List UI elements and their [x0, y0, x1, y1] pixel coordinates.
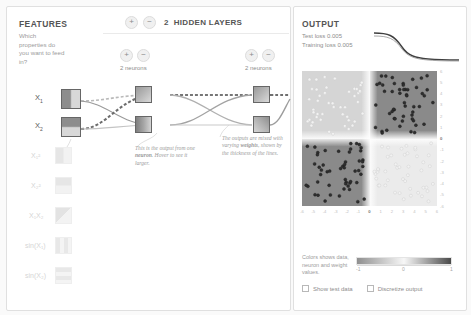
- annotation-neuron-bold: neuron: [135, 152, 152, 158]
- data-point: [425, 186, 428, 189]
- add-neuron-layer-1-button[interactable]: +: [120, 49, 133, 62]
- y-tick-neg1: -1: [440, 147, 448, 152]
- data-point: [402, 115, 405, 118]
- data-point: [343, 163, 346, 166]
- show-test-data-box[interactable]: [302, 285, 309, 292]
- y-tick-6: 6: [440, 69, 448, 74]
- data-point: [355, 88, 358, 91]
- annotation-neuron: This is the output from one neuron. Hove…: [135, 145, 197, 167]
- data-point: [360, 81, 363, 84]
- hidden-node-l2-n2[interactable]: [253, 116, 270, 133]
- layer-2-control: + − 2 neurons: [245, 49, 275, 71]
- x-tick-neg2: -2: [343, 209, 351, 214]
- data-point: [374, 126, 377, 129]
- data-point: [406, 152, 409, 155]
- feature-label-x1x2: X₁X₂: [29, 212, 43, 219]
- data-point: [323, 91, 326, 94]
- data-point: [414, 124, 417, 127]
- data-point: [343, 187, 346, 190]
- feature-swatch-x1-squared[interactable]: [55, 147, 72, 164]
- data-point: [401, 120, 404, 123]
- legend-tick-mid: 0: [402, 266, 405, 272]
- data-point: [414, 146, 417, 149]
- hidden-node-l1-n2[interactable]: [135, 116, 152, 133]
- y-tick-5: 5: [440, 80, 448, 85]
- y-tick-neg2: -2: [440, 159, 448, 164]
- data-point: [404, 180, 407, 183]
- data-point: [427, 200, 430, 203]
- y-tick-neg3: -3: [440, 170, 448, 175]
- data-point: [344, 106, 347, 109]
- data-point: [347, 119, 350, 122]
- data-point: [430, 142, 433, 145]
- data-point: [315, 78, 318, 81]
- y-tick-0: 0: [440, 136, 448, 141]
- edge-h2-o1[interactable]: [170, 95, 252, 125]
- data-point: [393, 82, 396, 85]
- data-point: [373, 170, 376, 173]
- data-point: [394, 191, 397, 194]
- input-node-x2[interactable]: [61, 117, 81, 137]
- x-tick-6: 6: [433, 209, 441, 214]
- data-point: [308, 78, 311, 81]
- input-node-x1[interactable]: [61, 89, 81, 109]
- data-point: [409, 194, 412, 197]
- y-tick-neg6: -6: [440, 204, 448, 209]
- edge-h1-o2[interactable]: [170, 95, 252, 125]
- data-point: [329, 193, 332, 196]
- show-test-data-checkbox[interactable]: Show test data: [302, 285, 353, 292]
- remove-layer-button[interactable]: −: [143, 16, 156, 29]
- discretize-output-box[interactable]: [367, 285, 374, 292]
- x-tick-3: 3: [399, 209, 407, 214]
- hidden-node-l2-n1[interactable]: [253, 86, 270, 103]
- output-panel: OUTPUT Test loss 0.005 Training loss 0.0…: [293, 6, 467, 311]
- feature-swatch-x2-squared[interactable]: [55, 177, 72, 194]
- hidden-node-l1-n1[interactable]: [135, 86, 152, 103]
- data-point: [386, 179, 389, 182]
- data-point: [402, 84, 405, 87]
- data-point: [318, 94, 321, 97]
- data-point: [394, 163, 397, 166]
- data-point: [332, 132, 335, 135]
- x-tick-neg4: -4: [321, 209, 329, 214]
- data-point: [391, 90, 394, 93]
- data-point: [398, 92, 401, 95]
- data-point: [426, 74, 429, 77]
- input-x1-label: X1: [35, 93, 43, 104]
- data-point: [321, 113, 324, 116]
- data-point: [384, 184, 387, 187]
- discretize-output-checkbox[interactable]: Discretize output: [367, 285, 423, 292]
- data-point: [311, 121, 314, 124]
- hidden-layers-control: + − 2 HIDDEN LAYERS: [125, 16, 242, 29]
- features-heading: FEATURES: [19, 19, 67, 29]
- data-point: [376, 83, 379, 86]
- data-point: [387, 146, 390, 149]
- x-tick-neg5: -5: [309, 209, 317, 214]
- feature-swatch-sin-x1[interactable]: [55, 237, 72, 254]
- data-point: [360, 146, 363, 149]
- feature-swatch-sin-x2[interactable]: [55, 267, 72, 284]
- data-point: [316, 153, 319, 156]
- add-neuron-layer-2-button[interactable]: +: [245, 49, 258, 62]
- y-tick-neg4: -4: [440, 181, 448, 186]
- data-point: [415, 86, 418, 89]
- data-point: [391, 110, 394, 113]
- add-layer-button[interactable]: +: [125, 16, 138, 29]
- data-point: [355, 142, 358, 145]
- data-point: [404, 105, 407, 108]
- data-point: [383, 90, 386, 93]
- legend-description: Colors shows data, neuron and weight val…: [302, 254, 350, 277]
- remove-neuron-layer-2-button[interactable]: −: [262, 49, 275, 62]
- features-panel: FEATURES Which properties do you want to…: [6, 6, 291, 311]
- x-tick-neg1: -1: [354, 209, 362, 214]
- data-point: [319, 118, 322, 121]
- feature-swatch-x1x2[interactable]: [55, 207, 72, 224]
- data-point: [313, 162, 316, 165]
- data-point: [358, 159, 361, 162]
- layer-1-neuron-count: 2 neurons: [120, 65, 150, 71]
- output-heatmap[interactable]: [302, 71, 437, 206]
- remove-neuron-layer-1-button[interactable]: −: [137, 49, 150, 62]
- edge-o2-output[interactable]: [270, 99, 290, 125]
- data-point: [349, 180, 352, 183]
- data-point: [320, 169, 323, 172]
